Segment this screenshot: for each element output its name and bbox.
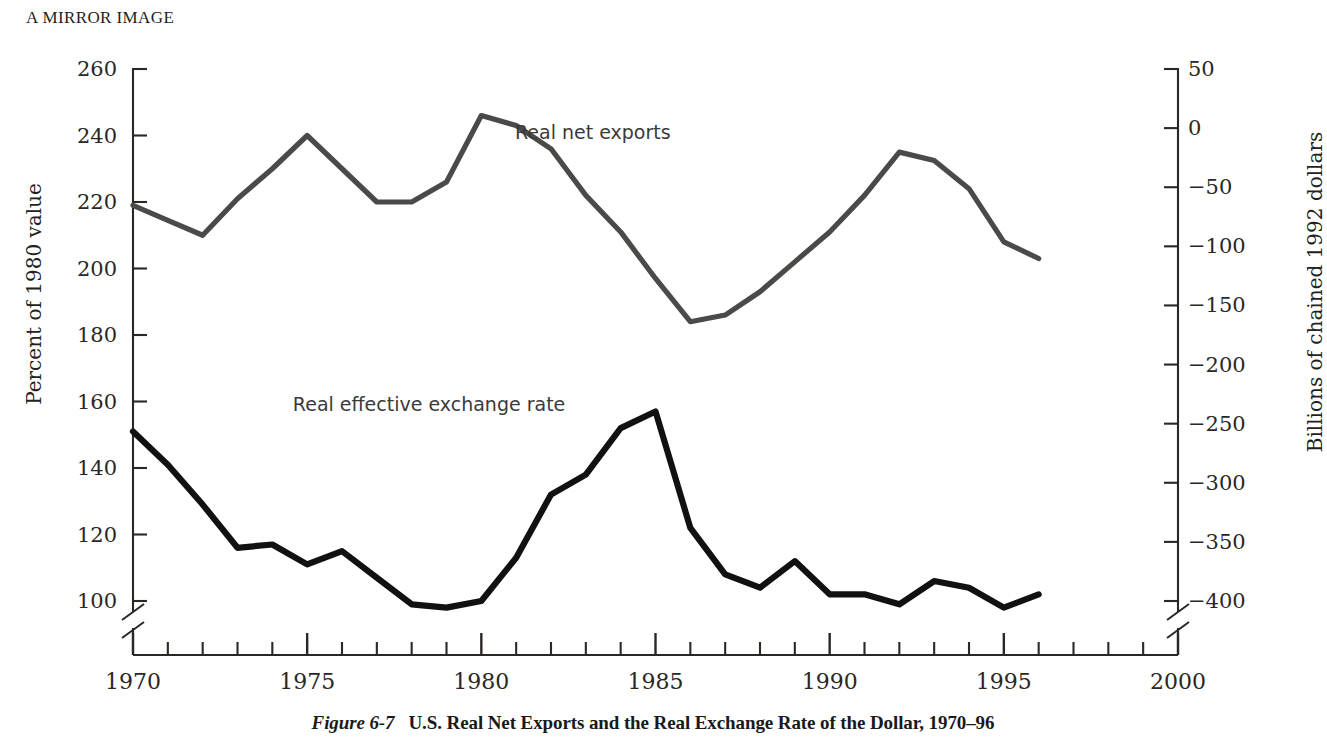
series-line-exchange-rate	[133, 411, 1039, 607]
left-axis-tick-label: 120	[77, 523, 117, 547]
left-axis-tick-label: 160	[77, 390, 117, 414]
series-label-net-exports: Real net exports	[515, 121, 671, 143]
figure-title: U.S. Real Net Exports and the Real Excha…	[409, 712, 995, 733]
right-axis-tick-label: −300	[1188, 471, 1246, 495]
x-axis-tick-label: 1990	[802, 669, 858, 694]
series-line-net-exports	[133, 116, 1039, 322]
right-axis-tick-label: −400	[1188, 589, 1246, 613]
x-axis-tick-label: 1995	[976, 669, 1032, 694]
right-axis-tick-label: 50	[1188, 57, 1215, 81]
left-axis-tick-label: 220	[77, 190, 117, 214]
x-axis-tick-label: 2000	[1150, 669, 1206, 694]
annotation-layer: Real net exportsReal effective exchange …	[293, 121, 671, 416]
right-axis-tick-label: −250	[1188, 412, 1246, 436]
right-axis-tick-label: 0	[1188, 116, 1201, 140]
left-axis-tick-label: 260	[77, 57, 117, 81]
left-axis-line	[133, 69, 147, 612]
x-axis-tick-label: 1975	[279, 669, 335, 694]
figure-number: Figure 6-7	[312, 712, 395, 733]
x-axis-tick-label: 1970	[105, 669, 161, 694]
right-axis-tick-label: −150	[1188, 293, 1246, 317]
right-axis-tick-label: −100	[1188, 234, 1246, 258]
right-axis-tick-label: −350	[1188, 530, 1246, 554]
x-axis-tick-label: 1985	[628, 669, 684, 694]
figure-caption: Figure 6-7U.S. Real Net Exports and the …	[0, 712, 1306, 734]
series-label-exchange-rate: Real effective exchange rate	[293, 393, 565, 415]
axis-layer: 260240220200180160140120100500−50−100−15…	[77, 57, 1246, 694]
right-axis-title: Billions of chained 1992 dollars	[1303, 127, 1327, 457]
left-axis-tick-label: 140	[77, 456, 117, 480]
series-layer	[133, 116, 1039, 608]
right-axis-line	[1164, 69, 1178, 612]
x-axis-tick-label: 1980	[453, 669, 509, 694]
right-axis-tick-label: −200	[1188, 353, 1246, 377]
right-axis-tick-label: −50	[1188, 175, 1232, 199]
left-axis-tick-label: 180	[77, 323, 117, 347]
left-axis-tick-label: 200	[77, 257, 117, 281]
left-axis-tick-label: 100	[77, 589, 117, 613]
left-axis-tick-label: 240	[77, 124, 117, 148]
